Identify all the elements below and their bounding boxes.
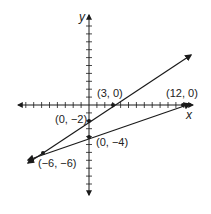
- point-12-0: [181, 103, 185, 107]
- point-3-0: [111, 103, 115, 107]
- coordinate-plane: y x (3, 0) (12, 0) (0, −2) (0, −4) (−6, …: [0, 0, 211, 214]
- line-b: [28, 104, 190, 160]
- y-axis-label: y: [79, 11, 85, 23]
- point-label-0-neg2: (0, −2): [55, 114, 87, 125]
- point-0-neg4: [87, 135, 91, 139]
- point-label-3-0: (3, 0): [97, 88, 123, 99]
- point-0-neg2: [87, 119, 91, 123]
- point-label-neg6-neg6: (−6, −6): [38, 158, 77, 169]
- point-label-0-neg4: (0, −4): [96, 137, 128, 148]
- x-axis-label: x: [186, 109, 192, 121]
- point-label-12-0: (12, 0): [166, 88, 198, 99]
- graph-canvas: [0, 0, 211, 214]
- x-axis-ticks: [26, 102, 184, 108]
- point-neg6-neg6: [41, 151, 45, 155]
